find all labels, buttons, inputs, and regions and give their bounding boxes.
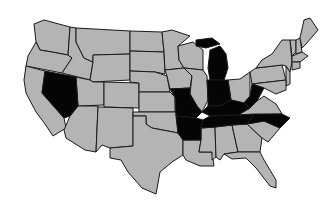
state-ohio xyxy=(228,72,250,103)
state-kansas xyxy=(139,92,175,112)
state-wyoming xyxy=(90,54,130,82)
state-new-mexico xyxy=(96,107,133,152)
state-colorado xyxy=(104,82,139,108)
state-maine xyxy=(300,18,318,48)
state-north-dakota xyxy=(130,31,164,52)
state-connecticut xyxy=(292,62,300,70)
us-map xyxy=(0,0,326,207)
state-florida xyxy=(224,152,276,188)
state-arkansas-highlighted xyxy=(176,116,203,140)
state-south-dakota xyxy=(130,51,165,74)
